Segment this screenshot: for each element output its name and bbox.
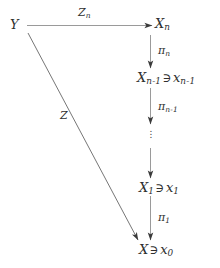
node-X-n-minus-1-base: X — [137, 70, 146, 85]
node-X-1-base: X — [139, 180, 148, 195]
edge-label-pi-n-sub: n — [165, 49, 170, 58]
node-Y-base: Y — [10, 17, 19, 32]
vertical-ellipsis: . . . — [146, 128, 156, 137]
edge-label-Z-n: Zn — [78, 7, 91, 19]
membership-symbol: ∋ — [161, 71, 173, 85]
node-X-n-minus-1: Xn-1∋xn-1 — [137, 71, 195, 86]
membership-symbol: ∋ — [154, 181, 166, 195]
node-X: X∋x0 — [139, 243, 173, 258]
edge-label-pi-n: πn — [158, 45, 170, 57]
arrow-Z — [28, 33, 138, 240]
diagram-arrows — [0, 0, 220, 268]
node-X-n: Xn — [155, 17, 170, 32]
edge-label-pi-1: π1 — [158, 212, 170, 224]
node-X-n-sub: n — [164, 22, 170, 32]
node-X-n-base: X — [155, 16, 164, 31]
node-X-n-minus-1-sub: n-1 — [146, 76, 161, 86]
commutative-diagram: Y Xn Xn-1∋xn-1 X1∋x1 X∋x0 Zn Z πn πn-1 π… — [0, 0, 220, 268]
edge-label-pi-n-minus-1: πn-1 — [158, 101, 178, 113]
edge-label-pi-n-minus-1-sub: n-1 — [165, 105, 178, 114]
edge-label-Z-n-sub: n — [86, 11, 91, 20]
element-x-1-sub: 1 — [173, 186, 179, 196]
node-X-1: X1∋x1 — [139, 181, 179, 196]
node-X-base: X — [139, 242, 148, 257]
element-x-0-sub: 0 — [167, 248, 173, 258]
node-Y: Y — [10, 18, 19, 31]
edge-label-pi-1-sub: 1 — [165, 216, 170, 225]
ellipsis-dot: . — [146, 134, 156, 137]
element-x-n-minus-1-sub: n-1 — [180, 76, 195, 86]
edge-label-Z: Z — [60, 110, 68, 121]
membership-symbol: ∋ — [148, 243, 160, 257]
edge-label-Z-base: Z — [60, 109, 68, 122]
edge-label-Z-n-base: Z — [78, 6, 86, 19]
